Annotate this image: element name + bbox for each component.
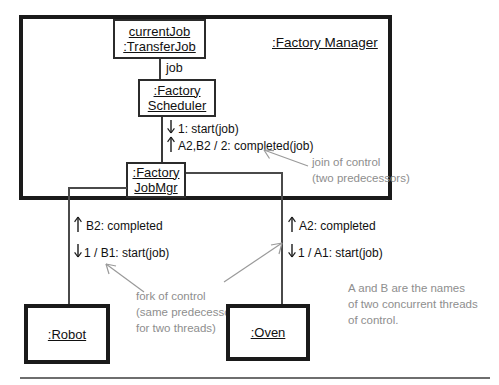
object-robot-label: :Robot	[48, 327, 86, 342]
link-jobmgr-oven-horizontal	[186, 172, 282, 174]
note-join-of-control: join of control (two predecessors)	[312, 155, 410, 187]
object-robot[interactable]: :Robot	[24, 304, 110, 364]
factory-manager-title: :Factory Manager	[272, 35, 378, 50]
object-factory-jobmgr[interactable]: :Factory JobMgr	[126, 162, 186, 198]
message-b2-completed: B2: completed	[86, 220, 163, 232]
object-currentjob-transferjob[interactable]: currentJob :TransferJob	[113, 19, 206, 59]
object-currentjob-line-1: currentJob	[129, 24, 190, 39]
message-start-job: 1: start(job)	[178, 123, 239, 135]
note-join-line-2: (two predecessors)	[312, 171, 410, 187]
object-jobmgr-line-2: JobMgr	[134, 180, 177, 195]
note-fork-line-1: fork of control	[136, 289, 234, 305]
object-oven[interactable]: :Oven	[226, 304, 310, 361]
role-label-job: job	[166, 61, 183, 75]
object-currentjob-line-2: :TransferJob	[123, 39, 196, 54]
link-scheduler-jobmgr	[161, 117, 163, 162]
object-jobmgr-line-1: :Factory	[133, 165, 180, 180]
bottom-divider	[20, 377, 490, 379]
note-pointer-fork-right-arrow	[222, 240, 286, 284]
note-fork-of-control: fork of control (same predecessor for tw…	[136, 289, 234, 337]
object-scheduler-line-1: :Factory	[154, 83, 201, 98]
uml-collaboration-diagram: :Factory Manager currentJob :TransferJob…	[0, 0, 499, 385]
note-threads-line-1: A and B are the names	[348, 281, 478, 297]
note-fork-line-3: for two threads)	[136, 321, 234, 337]
message-a1-start-job: 1 / A1: start(job)	[298, 247, 383, 259]
object-scheduler-line-2: Scheduler	[148, 98, 207, 113]
object-oven-label: :Oven	[251, 325, 286, 340]
note-pointer-join-arrow	[262, 148, 310, 168]
note-threads-line-2: of two concurrent threads	[348, 297, 478, 313]
note-join-line-1: join of control	[312, 155, 410, 171]
link-jobmgr-robot-horizontal	[68, 187, 127, 189]
link-jobmgr-oven-vertical	[281, 172, 283, 304]
arrow-up-b2-completed	[74, 216, 86, 233]
note-threads-explanation: A and B are the names of two concurrent …	[348, 281, 478, 329]
link-jobmgr-robot-vertical	[68, 187, 70, 304]
message-b1-start-job: 1 / B1: start(job)	[84, 247, 169, 259]
link-currentjob-scheduler	[159, 59, 161, 80]
note-threads-line-3: of control.	[348, 313, 478, 329]
message-a2-completed: A2: completed	[299, 220, 376, 232]
note-fork-line-2: (same predecessor	[136, 305, 234, 321]
object-factory-scheduler[interactable]: :Factory Scheduler	[138, 79, 216, 117]
